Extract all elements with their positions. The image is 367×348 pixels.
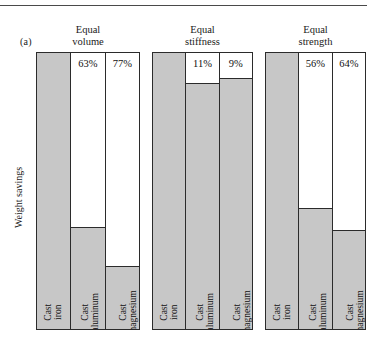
panel-letter: (a) <box>20 36 32 47</box>
bar-fill <box>37 53 70 329</box>
bar-cast-iron: Cast iron <box>37 53 71 329</box>
group-title-equal-volume: Equal volume <box>72 24 104 48</box>
group-title-line-2: volume <box>72 36 104 48</box>
bar-fill <box>333 230 365 329</box>
bar-group-equal-stiffness: Equal stiffness Cast iron 11% Cast alumi… <box>152 52 253 330</box>
bar-cast-aluminum: 63% Cast aluminum <box>71 53 105 329</box>
weight-savings-figure: (a) Weight savings Equal volume Cast iro… <box>0 0 367 348</box>
bar-cast-magnesium: 9% Cast magnesium <box>220 53 252 329</box>
bar-fill <box>71 227 104 329</box>
bar-fill <box>153 53 185 329</box>
bar-savings-label: 11% <box>186 58 218 69</box>
bar-group-equal-volume: Equal volume Cast iron 63% Cast aluminum… <box>36 52 140 330</box>
bar-group-equal-strength: Equal strength Cast iron 56% Cast alumin… <box>265 52 366 330</box>
bars-container: Cast iron 11% Cast aluminum 9% Cast magn… <box>152 52 253 330</box>
bar-fill <box>299 208 331 329</box>
bar-savings-label: 9% <box>220 58 252 69</box>
bar-savings-label: 56% <box>299 58 331 69</box>
bar-savings-label: 64% <box>333 58 365 69</box>
bar-fill <box>186 83 218 329</box>
bar-savings-label: 77% <box>106 58 139 69</box>
bar-cast-magnesium: 64% Cast magnesium <box>333 53 365 329</box>
group-title-equal-strength: Equal strength <box>299 24 333 48</box>
bar-cast-aluminum: 56% Cast aluminum <box>299 53 332 329</box>
bar-savings-label: 63% <box>71 58 104 69</box>
header-rule <box>0 5 367 6</box>
bar-fill <box>106 266 139 329</box>
group-title-line-2: stiffness <box>185 36 220 48</box>
group-title-line-1: Equal <box>72 24 104 36</box>
group-title-line-1: Equal <box>299 24 333 36</box>
bar-cast-aluminum: 11% Cast aluminum <box>186 53 219 329</box>
bar-cast-magnesium: 77% Cast magnesium <box>106 53 139 329</box>
y-axis-label: Weight savings <box>13 143 24 253</box>
bars-container: Cast iron 56% Cast aluminum 64% Cast mag… <box>265 52 366 330</box>
bars-container: Cast iron 63% Cast aluminum 77% Cast mag… <box>36 52 140 330</box>
group-title-line-2: strength <box>299 36 333 48</box>
bar-cast-iron: Cast iron <box>266 53 299 329</box>
bar-fill <box>220 78 252 329</box>
group-title-equal-stiffness: Equal stiffness <box>185 24 220 48</box>
bar-fill <box>266 53 298 329</box>
bar-cast-iron: Cast iron <box>153 53 186 329</box>
group-title-line-1: Equal <box>185 24 220 36</box>
